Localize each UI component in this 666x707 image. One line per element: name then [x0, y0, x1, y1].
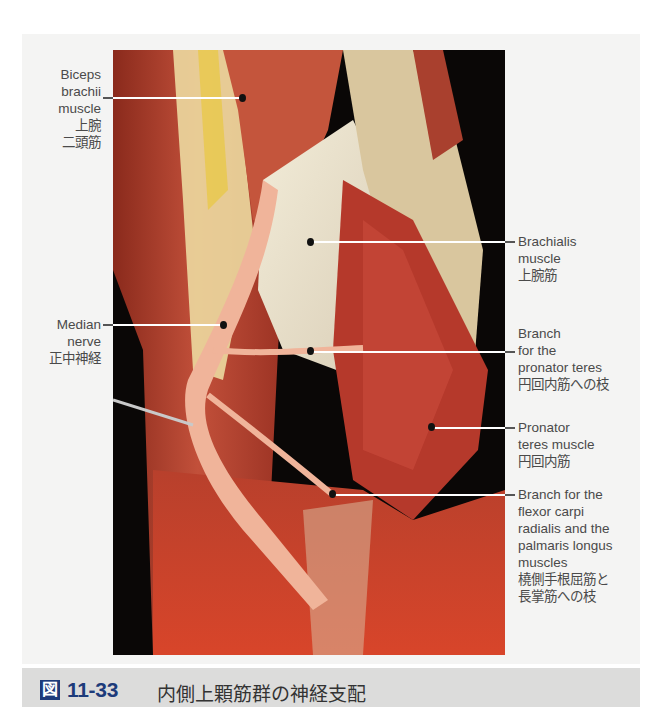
label-line: nerve [49, 333, 101, 350]
label-line: radialis and the [518, 520, 613, 537]
label-line: muscle [58, 100, 101, 117]
label-branch-fcr-pl: Branch for the flexor carpi radialis and… [518, 486, 613, 605]
label-line: teres muscle [518, 436, 595, 453]
label-line: muscle [518, 250, 577, 267]
figure-caption: 図 11-33 内側上顆筋群の神経支配 [22, 668, 640, 707]
label-median-nerve: Median nerve 正中神経 [49, 316, 101, 367]
label-line: 正中神経 [49, 350, 101, 367]
leader-line-branch-fcr [334, 494, 505, 496]
label-line: 橈側手根屈筋と [518, 571, 613, 588]
label-line: 二頭筋 [58, 134, 101, 151]
marker-dot-biceps [239, 94, 246, 102]
marker-dot-pronator [428, 423, 435, 431]
leader-line-biceps [113, 97, 243, 99]
label-line: Branch [518, 325, 609, 342]
label-line: 円回内筋への枝 [518, 376, 609, 393]
leader-line-brachialis [312, 241, 505, 243]
label-biceps-brachii: Biceps brachii muscle 上腕 二頭筋 [58, 66, 101, 151]
label-line: Branch for the [518, 486, 613, 503]
label-line: Median [49, 316, 101, 333]
marker-dot-median [220, 321, 227, 329]
label-line: brachii [58, 83, 101, 100]
marker-dot-branch-fcr [329, 490, 336, 498]
marker-dot-brachialis [307, 238, 314, 246]
figure-number: 11-33 [67, 678, 118, 702]
marker-dot-branch-pronator [307, 347, 314, 355]
leader-line-pronator [433, 427, 505, 429]
leader-line-brachialis [505, 241, 515, 243]
label-line: 円回内筋 [518, 453, 595, 470]
label-line: muscles [518, 554, 613, 571]
leader-line-median [103, 324, 113, 326]
label-brachialis: Brachialis muscle 上腕筋 [518, 233, 577, 284]
label-line: Biceps [58, 66, 101, 83]
leader-line-median [113, 324, 224, 326]
label-pronator-teres: Pronator teres muscle 円回内筋 [518, 419, 595, 470]
figure-icon: 図 [40, 680, 60, 700]
label-line: 長掌筋への枝 [518, 588, 613, 605]
label-line: Brachialis [518, 233, 577, 250]
label-line: 上腕筋 [518, 267, 577, 284]
label-line: 上腕 [58, 117, 101, 134]
figure-title: 内側上顆筋群の神経支配 [157, 679, 366, 706]
label-line: for the [518, 342, 609, 359]
leader-line-pronator [505, 427, 515, 429]
leader-line-branch-pronator [505, 351, 515, 353]
leader-line-biceps [103, 97, 113, 99]
label-line: flexor carpi [518, 503, 613, 520]
label-line: pronator teres [518, 359, 609, 376]
leader-line-branch-fcr [505, 494, 515, 496]
label-line: Pronator [518, 419, 595, 436]
label-line: palmaris longus [518, 537, 613, 554]
leader-line-branch-pronator [312, 351, 505, 353]
label-branch-pronator-teres: Branch for the pronator teres 円回内筋への枝 [518, 325, 609, 393]
